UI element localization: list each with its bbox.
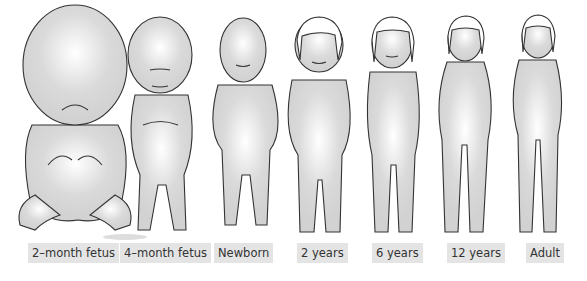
label-2-years: 2 years <box>297 243 348 263</box>
label-6-years: 6 years <box>372 243 423 263</box>
fetus-2-month-figure <box>19 5 147 240</box>
newborn-figure <box>213 18 278 225</box>
label-2-month-fetus: 2–month fetus <box>28 243 119 263</box>
child-12-years-figure <box>439 16 491 232</box>
child-2-years-figure <box>288 17 350 232</box>
label-4-month-fetus: 4–month fetus <box>120 243 211 263</box>
adult-figure <box>513 15 561 232</box>
developmental-stages-illustration <box>0 0 587 281</box>
child-6-years-figure <box>367 17 419 232</box>
label-newborn: Newborn <box>214 243 273 263</box>
label-adult: Adult <box>526 243 564 263</box>
label-12-years: 12 years <box>447 243 505 263</box>
fetus-4-month-figure <box>128 17 192 230</box>
